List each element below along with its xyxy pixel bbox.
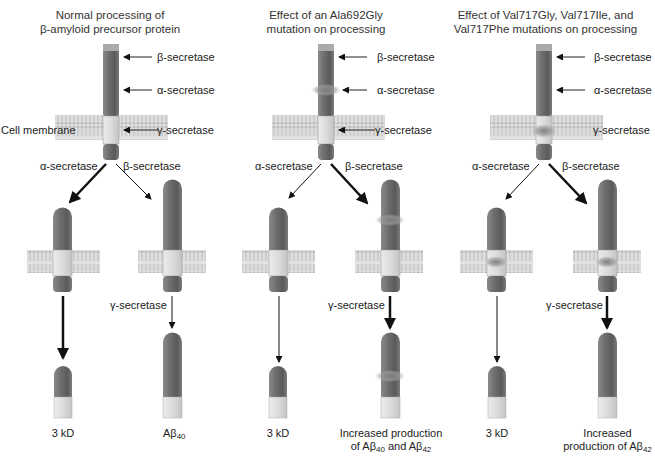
gamma-step-label: γ-secretase [546,299,603,312]
beta-branch-label: β-secretase [123,160,181,173]
mutation-marker-alpha [311,84,341,96]
beta-branch-label: β-secretase [345,160,403,173]
p3-product [269,366,287,418]
gamma-step-label: γ-secretase [110,299,167,312]
subscript: 42 [643,445,652,454]
p3-product [488,366,506,418]
alpha-secretase-label: α-secretase [377,84,435,97]
alpha-secretase-label: α-secretase [157,84,215,97]
cell-membrane-label: Cell membrane [1,124,76,137]
mutation-marker-gamma [531,124,557,138]
c99-fragment [598,180,617,293]
panel-val717 [460,44,641,418]
title-line: Normal processing of [10,8,210,22]
product-3kd-label: 3 kD [258,427,298,440]
abeta-text: Aβ [163,427,177,439]
panel-ala692gly [242,44,423,418]
c99-fragment [163,180,182,293]
title-line: Val717Phe mutations on processing [438,22,653,36]
product-increased-label: Increased production of Aβ42 [560,427,655,453]
c83-fragment [487,208,506,293]
c83-fragment [269,208,288,293]
alpha-secretase-label: α-secretase [594,84,652,97]
title-line: Effect of Val717Gly, Val717Ile, and [438,8,653,22]
subscript: 42 [422,445,431,454]
app-protein [536,44,552,160]
diagram-canvas [0,0,655,457]
mutation-marker-alpha [375,214,405,226]
app-protein [318,44,334,160]
c83-fragment [53,208,72,293]
app-protein [103,44,119,160]
product-3kd-label: 3 kD [43,427,83,440]
alpha-branch-label: α-secretase [255,160,313,173]
title-line: β-amyloid precursor protein [10,22,210,36]
product-line: Increased production [335,427,447,440]
alpha-branch-label: α-secretase [472,160,530,173]
gamma-secretase-label: γ-secretase [593,124,650,137]
product-increased-label: Increased production of Aβ40 and Aβ42 [335,427,447,453]
panel-title: Effect of an Ala692Gly mutation on proce… [226,8,426,36]
p3-product [54,366,72,418]
abeta42-product [598,333,617,419]
beta-secretase-label: β-secretase [377,51,435,64]
alpha-branch-label: α-secretase [40,160,98,173]
product-text: of Aβ [351,440,376,452]
panel-normal [27,44,206,418]
product-text: production of Aβ [563,440,643,452]
mutation-marker-gamma [484,256,508,268]
panel-title: Normal processing of β-amyloid precursor… [10,8,210,36]
subscript: 40 [376,445,385,454]
c99-fragment [381,180,400,293]
beta-secretase-label: β-secretase [594,51,652,64]
product-line: of Aβ40 and Aβ42 [335,440,447,453]
product-3kd-label: 3 kD [477,427,517,440]
abeta40-product [163,333,182,419]
gamma-secretase-label: γ-secretase [157,124,214,137]
mutation-marker-alpha [375,370,405,382]
gamma-secretase-label: γ-secretase [375,124,432,137]
gamma-step-label: γ-secretase [328,299,385,312]
product-abeta40-label: Aβ40 [163,427,186,440]
beta-branch-label: β-secretase [562,160,620,173]
panel-title: Effect of Val717Gly, Val717Ile, and Val7… [438,8,653,36]
product-text: and Aβ [385,440,423,452]
beta-secretase-label: β-secretase [157,51,215,64]
mutation-marker-gamma [595,256,619,268]
product-line: Increased [560,427,655,440]
title-line: Effect of an Ala692Gly [226,8,426,22]
abeta-subscript: 40 [177,432,186,441]
title-line: mutation on processing [226,22,426,36]
product-line: production of Aβ42 [560,440,655,453]
